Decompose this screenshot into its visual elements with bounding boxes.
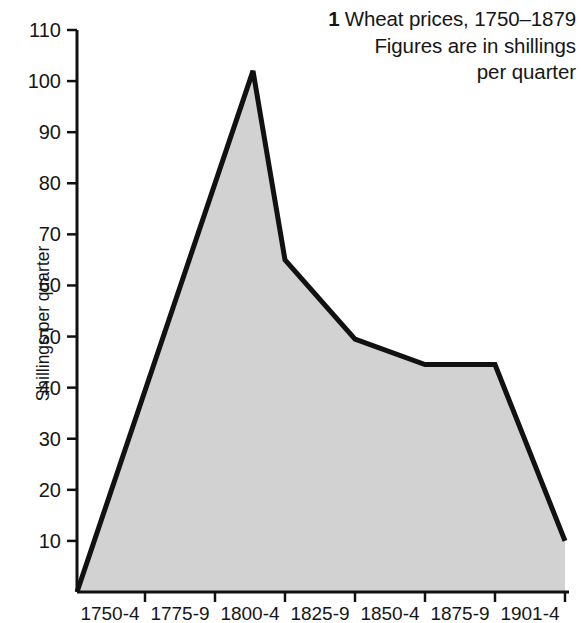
- y-tick-label: 100: [28, 70, 61, 92]
- y-tick-label: 70: [39, 223, 61, 245]
- y-tick-label: 30: [39, 428, 61, 450]
- x-tick-label: 1750-4: [80, 603, 140, 623]
- y-tick-label: 90: [39, 121, 61, 143]
- x-tick-label: 1875-9: [430, 603, 489, 623]
- x-tick-label: 1800-4: [220, 603, 280, 623]
- y-tick-label: 40: [39, 377, 61, 399]
- wheat-prices-chart-figure: 1Wheat prices, 1750–1879 Figures are in …: [0, 0, 581, 623]
- y-tick-group: 110100908070605040302010: [28, 19, 77, 552]
- y-tick-label: 60: [39, 274, 61, 296]
- y-tick-label: 20: [39, 479, 61, 501]
- chart-plot-area: 110100908070605040302010 1750-41775-9180…: [0, 0, 581, 623]
- y-tick-label: 10: [39, 530, 61, 552]
- x-tick-label: 1825-9: [290, 603, 349, 623]
- x-tick-label: 1850-4: [360, 603, 420, 623]
- x-tick-label: 1775-9: [150, 603, 209, 623]
- y-tick-label: 80: [39, 172, 61, 194]
- y-tick-label: 50: [39, 326, 61, 348]
- x-tick-group: 1750-41775-91800-41825-91850-41875-91901…: [80, 592, 565, 623]
- x-tick-label: 1901-4: [500, 603, 560, 623]
- y-tick-label: 110: [29, 19, 61, 41]
- area-fill-path: [77, 71, 565, 592]
